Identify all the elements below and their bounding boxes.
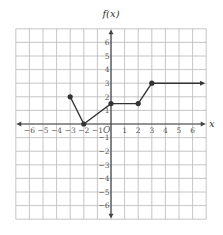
x-tick-label: −2 <box>78 126 89 135</box>
x-tick-label: −3 <box>65 126 76 135</box>
function-graph: −6−5−4−3−2−1123456654321−1−2−3−4−5−6 f(x… <box>0 0 223 235</box>
x-tick-label: 2 <box>136 126 141 135</box>
closed-point <box>149 81 154 86</box>
x-tick-label: 1 <box>122 126 127 135</box>
function-curve <box>68 81 206 127</box>
x-axis-arrow-right-icon <box>201 122 206 127</box>
y-tick-label: −4 <box>98 174 109 183</box>
x-tick-label: −6 <box>24 126 35 135</box>
y-tick-label: −3 <box>98 161 109 170</box>
y-tick-label: −5 <box>98 188 109 197</box>
closed-point <box>81 121 86 126</box>
closed-point <box>136 101 141 106</box>
y-tick-label: 4 <box>105 65 110 74</box>
y-axis-arrow-down-icon <box>109 214 114 219</box>
chart-title: f(x) <box>101 8 119 19</box>
y-tick-label: 6 <box>105 38 110 47</box>
x-axis-label: x <box>209 118 215 129</box>
y-tick-label: 2 <box>105 93 110 102</box>
x-tick-label: −4 <box>51 126 62 135</box>
ray-arrow-icon <box>200 81 205 86</box>
y-tick-label: −2 <box>98 147 109 156</box>
x-tick-label: 4 <box>163 126 168 135</box>
x-axis-arrow-left-icon <box>16 122 21 127</box>
y-axis-arrow-up-icon <box>109 29 114 34</box>
x-tick-label: 3 <box>149 126 154 135</box>
x-tick-label: 6 <box>190 126 195 135</box>
y-tick-label: 3 <box>105 79 110 88</box>
y-tick-label: 5 <box>105 52 110 61</box>
closed-point <box>68 94 73 99</box>
origin-label: O <box>103 125 111 135</box>
axes <box>16 29 205 218</box>
y-tick-label: −6 <box>98 201 109 210</box>
x-tick-label: −5 <box>37 126 48 135</box>
closed-point <box>108 101 113 106</box>
x-tick-label: 5 <box>177 126 182 135</box>
